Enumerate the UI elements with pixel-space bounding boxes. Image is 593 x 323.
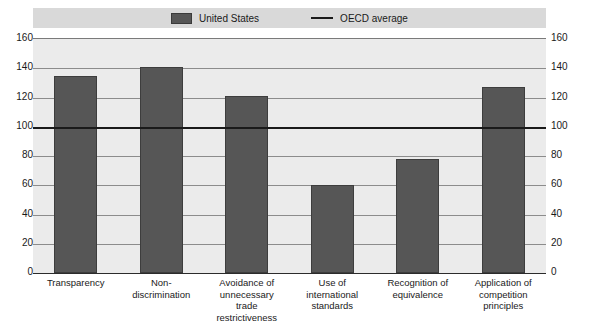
chart-legend: United States OECD average xyxy=(33,8,546,28)
bar-slot xyxy=(204,39,290,273)
bar-slot xyxy=(290,39,376,273)
y-tick-0: 0 xyxy=(0,267,33,277)
y-tick-20: 20 xyxy=(0,238,33,248)
y-tick-0: 0 xyxy=(551,267,593,277)
legend-item-united-states: United States xyxy=(171,13,259,24)
line-swatch-icon xyxy=(311,17,333,19)
bar[interactable] xyxy=(140,67,183,273)
bar[interactable] xyxy=(482,87,525,273)
category-label-4: Recognition ofequivalence xyxy=(375,277,461,323)
y-tick-120: 120 xyxy=(551,92,593,102)
bar[interactable] xyxy=(54,76,97,273)
bar-slot xyxy=(461,39,547,273)
bar-slot xyxy=(119,39,205,273)
bar-slot xyxy=(33,39,119,273)
y-tick-60: 60 xyxy=(0,179,33,189)
y-axis-left: 020406080100120140160 xyxy=(0,38,33,272)
category-label-1: Non-discrimination xyxy=(119,277,205,323)
y-tick-80: 80 xyxy=(551,150,593,160)
y-tick-120: 120 xyxy=(0,92,33,102)
legend-label-united-states: United States xyxy=(199,13,259,24)
y-axis-right: 020406080100120140160 xyxy=(551,38,593,272)
y-tick-160: 160 xyxy=(0,33,33,43)
y-tick-140: 140 xyxy=(0,62,33,72)
oecd-average-reference-line xyxy=(33,127,546,129)
y-tick-80: 80 xyxy=(0,150,33,160)
y-tick-40: 40 xyxy=(551,209,593,219)
bar-slot xyxy=(375,39,461,273)
legend-item-oecd-average: OECD average xyxy=(311,13,408,24)
category-label-3: Use of internationalstandards xyxy=(290,277,376,323)
bar[interactable] xyxy=(396,159,439,273)
category-label-5: Application ofcompetitionprinciples xyxy=(461,277,547,323)
y-tick-140: 140 xyxy=(551,62,593,72)
y-tick-20: 20 xyxy=(551,238,593,248)
category-label-0: Transparency xyxy=(33,277,119,323)
y-tick-100: 100 xyxy=(551,121,593,131)
x-axis-category-labels: TransparencyNon-discriminationAvoidance … xyxy=(33,277,546,323)
category-label-2: Avoidance ofunnecessarytrade restrictive… xyxy=(204,277,290,323)
bar[interactable] xyxy=(311,185,354,273)
legend-label-oecd-average: OECD average xyxy=(340,13,408,24)
bar-swatch-icon xyxy=(171,13,192,24)
bar[interactable] xyxy=(225,96,268,273)
bars-layer xyxy=(33,39,546,273)
y-tick-100: 100 xyxy=(0,121,33,131)
y-tick-40: 40 xyxy=(0,209,33,219)
plot-area xyxy=(33,38,546,274)
y-tick-60: 60 xyxy=(551,179,593,189)
y-tick-160: 160 xyxy=(551,33,593,43)
